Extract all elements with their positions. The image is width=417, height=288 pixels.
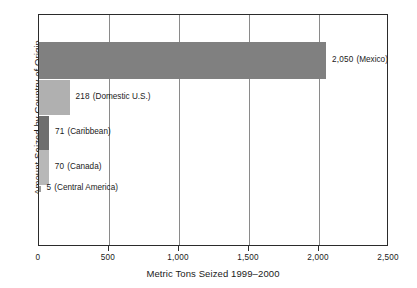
x-tick-1500: [248, 246, 249, 251]
bar-canada[interactable]: [39, 150, 49, 185]
bar-category: (Canada): [67, 162, 101, 171]
bar-label-domestic-u-s: 218(Domestic U.S.): [76, 93, 151, 101]
bar-value: 218: [76, 92, 90, 101]
bar-label-central-america: 5(Central America): [47, 184, 118, 192]
bar-value: 70: [55, 162, 65, 171]
x-axis-title: Metric Tons Seized 1999–2000: [38, 268, 388, 279]
bar-value: 2,050: [332, 55, 354, 64]
x-tick-label-500: 500: [101, 253, 115, 262]
bar-value: 5: [47, 183, 52, 192]
x-tick-label-2000: 2,000: [307, 253, 329, 262]
bar-category: (Mexico): [357, 55, 388, 64]
bar-domestic-u-s[interactable]: [39, 80, 70, 115]
x-tick-500: [108, 246, 109, 251]
x-tick-label-2500: 2,500: [377, 253, 399, 262]
bar-category: (Central America): [54, 183, 118, 192]
bar-caribbean[interactable]: [39, 116, 49, 150]
bar-category: (Domestic U.S.): [93, 92, 151, 101]
x-tick-1000: [178, 246, 179, 251]
bar-mexico[interactable]: [39, 42, 326, 79]
bar-category: (Caribbean): [67, 127, 110, 136]
bar-label-canada: 70(Canada): [55, 163, 102, 171]
bar-label-mexico: 2,050(Mexico): [332, 56, 388, 64]
x-tick-label-1500: 1,500: [237, 253, 259, 262]
bar-label-caribbean: 71(Caribbean): [55, 128, 111, 136]
bar-chart-figure: Amount Seized by Country of Origin 05001…: [0, 0, 417, 288]
x-tick-2000: [318, 246, 319, 251]
bar-central-america[interactable]: [39, 186, 41, 192]
x-tick-label-0: 0: [36, 253, 41, 262]
x-tick-label-1000: 1,000: [167, 253, 189, 262]
bar-value: 71: [55, 127, 65, 136]
